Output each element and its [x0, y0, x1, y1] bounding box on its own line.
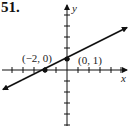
- y-axis-label: y: [71, 2, 77, 14]
- point-b-label: (0, 1): [78, 54, 102, 67]
- point-a-label: (−2, 0): [22, 52, 52, 65]
- point-a-marker: [43, 68, 48, 73]
- x-axis: [2, 67, 127, 73]
- point-b-marker: [65, 57, 70, 62]
- y-axis: [64, 5, 70, 126]
- coordinate-plane: (−2, 0) (0, 1) x y: [0, 0, 131, 127]
- x-axis-label: x: [120, 72, 126, 84]
